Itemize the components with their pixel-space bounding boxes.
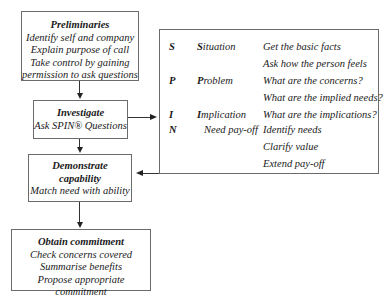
preliminaries-line: Take control by gaining <box>22 57 138 70</box>
spin-word: Implication <box>197 109 246 120</box>
investigate-box: Investigate Ask SPIN® Questions <box>33 100 128 139</box>
obtain-line: Propose appropriate commitment <box>12 274 150 295</box>
connector-line <box>142 173 159 174</box>
spin-row: N Need pay-off Identify needs <box>160 124 378 138</box>
spin-desc: Clarify value <box>263 141 318 152</box>
arrow-left-icon <box>136 170 143 176</box>
spin-row: S Situation Get the basic facts <box>160 41 378 55</box>
obtain-line: Summarise benefits <box>12 261 150 274</box>
spin-desc: What are the implications? <box>263 109 377 120</box>
demonstrate-box: Demonstrate capability Match need with a… <box>28 154 132 202</box>
spin-word: Problem <box>197 75 233 86</box>
demonstrate-title: Demonstrate <box>29 160 131 173</box>
spin-row: Extend pay-off <box>160 158 378 172</box>
spin-word-rest: ituation <box>203 41 236 52</box>
spin-row: Clarify value <box>160 141 378 155</box>
obtain-line: Check concerns covered <box>12 249 150 262</box>
spin-desc: Ask how the person feels <box>263 58 367 69</box>
spin-desc: What are the concerns? <box>263 75 363 86</box>
spin-row: Ask how the person feels <box>160 58 378 72</box>
arrow-down-icon <box>77 147 83 153</box>
spin-desc: Identify needs <box>263 124 322 135</box>
preliminaries-line: permission to ask questions <box>22 69 138 82</box>
connector-line <box>128 117 151 118</box>
connector-line <box>79 202 80 223</box>
spin-word: Need pay-off <box>204 124 258 135</box>
spin-word: Situation <box>197 41 236 52</box>
preliminaries-line: Explain purpose of call <box>22 44 138 57</box>
spin-word-rest: mplication <box>201 109 246 120</box>
obtain-title: Obtain commitment <box>12 236 150 249</box>
demonstrate-subtitle: Match need with ability <box>29 185 131 198</box>
spin-letter: S <box>169 41 175 52</box>
spin-row: I Implication What are the implications? <box>160 109 378 123</box>
preliminaries-line: Identify self and company <box>22 32 138 45</box>
spin-desc: Get the basic facts <box>263 41 341 52</box>
demonstrate-title-line2: capability <box>29 173 131 186</box>
investigate-title: Investigate <box>34 107 127 120</box>
spin-letter: N <box>169 124 177 135</box>
spin-word-rest: Need pay-off <box>204 124 258 135</box>
spin-letter: I <box>169 109 173 120</box>
spin-word-rest: roblem <box>203 75 232 86</box>
preliminaries-title: Preliminaries <box>22 19 138 32</box>
spin-desc: Extend pay-off <box>263 158 325 169</box>
spin-row: P Problem What are the concerns? <box>160 75 378 89</box>
spin-table-box: S Situation Get the basic facts Ask how … <box>159 29 379 174</box>
obtain-commitment-box: Obtain commitment Check concerns covered… <box>11 229 151 291</box>
spin-desc: What are the implied needs? <box>263 92 383 103</box>
spin-letter: P <box>169 75 175 86</box>
arrow-down-icon <box>77 222 83 228</box>
arrow-right-icon <box>150 114 157 120</box>
preliminaries-box: Preliminaries Identify self and company … <box>21 11 139 81</box>
arrow-down-icon <box>77 93 83 99</box>
spin-row: What are the implied needs? <box>160 92 378 106</box>
investigate-subtitle: Ask SPIN® Questions <box>34 120 127 133</box>
